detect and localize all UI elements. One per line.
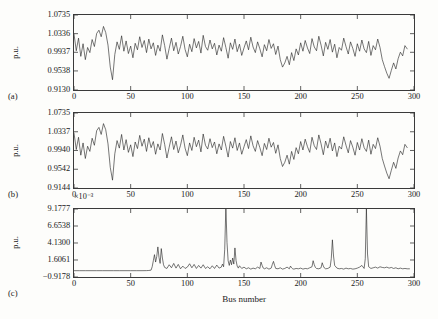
x-tick-label: 250 <box>351 93 364 101</box>
x-tick-label: 250 <box>351 280 364 288</box>
y-tick-label: 0.9937 <box>48 48 70 56</box>
x-tick-label: 50 <box>126 93 134 101</box>
x-tick-label: 150 <box>238 280 251 288</box>
panel-a-yticks: 0.91300.95380.99371.03361.0735 <box>24 14 70 91</box>
x-tick-label: 100 <box>181 93 194 101</box>
panel-b-ylabel: p.u. <box>11 131 20 171</box>
y-tick-label: 6.6538 <box>48 222 70 230</box>
y-tick-label: 0.9542 <box>48 165 70 173</box>
y-tick-label: 0.9940 <box>48 146 70 154</box>
panel-b-plot-area <box>73 112 415 189</box>
y-tick-label: 1.0735 <box>48 109 70 117</box>
x-tick-label: 200 <box>294 280 307 288</box>
y-tick-label: 1.0336 <box>48 29 70 37</box>
x-tick-label: 100 <box>181 191 194 199</box>
y-tick-label: 0.9144 <box>48 184 70 192</box>
x-tick-label: 50 <box>126 280 134 288</box>
x-tick-label: 300 <box>408 191 421 199</box>
panel-a-trace-svg <box>74 15 414 90</box>
x-tick-label: 150 <box>238 191 251 199</box>
y-tick-label: −0.9178 <box>43 273 70 281</box>
panel-b-label: (b) <box>8 189 18 199</box>
panel-a-label: (a) <box>8 91 18 101</box>
panel-b-trace-svg <box>74 113 414 188</box>
x-tick-label: 300 <box>408 93 421 101</box>
x-tick-label: 50 <box>126 191 134 199</box>
y-tick-label: 0.9130 <box>48 86 70 94</box>
x-tick-label: 100 <box>181 280 194 288</box>
x-tick-label: 300 <box>408 280 421 288</box>
x-tick-label: 250 <box>351 191 364 199</box>
panel-c-label: (c) <box>8 288 18 298</box>
panel-c-trace-svg <box>74 209 414 277</box>
x-tick-label: 0 <box>72 280 76 288</box>
panel-a-ylabel: p.u. <box>11 33 20 73</box>
panel-c-xticks: 050100150200250300 <box>73 280 415 292</box>
x-tick-label: 200 <box>294 93 307 101</box>
y-tick-label: 0.9538 <box>48 67 70 75</box>
y-tick-label: 9.1777 <box>48 205 70 213</box>
y-tick-label: 1.0337 <box>48 128 70 136</box>
x-axis-label: Bus number <box>222 294 266 304</box>
panel-a-xticks: 050100150200250300 <box>73 93 415 105</box>
y-tick-label: 4.1300 <box>48 239 70 247</box>
panel-b-yticks: 0.91440.95420.99401.03371.0735 <box>24 112 70 189</box>
y-tick-label: 1.6061 <box>48 256 70 264</box>
x-tick-label: 200 <box>294 191 307 199</box>
figure-container: p.u. (a) 0.91300.95380.99371.03361.0735 … <box>0 0 438 319</box>
panel-c-exponent-note: ×10⁻³ <box>74 191 93 201</box>
x-tick-label: 150 <box>238 93 251 101</box>
panel-c-yticks: −0.91781.60614.13006.65389.1777 <box>18 208 70 278</box>
panel-c-plot-area <box>73 208 415 278</box>
panel-b-xticks: 050100150200250300 <box>73 191 415 203</box>
y-tick-label: 1.0735 <box>48 11 70 19</box>
panel-a-plot-area <box>73 14 415 91</box>
x-tick-label: 0 <box>72 93 76 101</box>
